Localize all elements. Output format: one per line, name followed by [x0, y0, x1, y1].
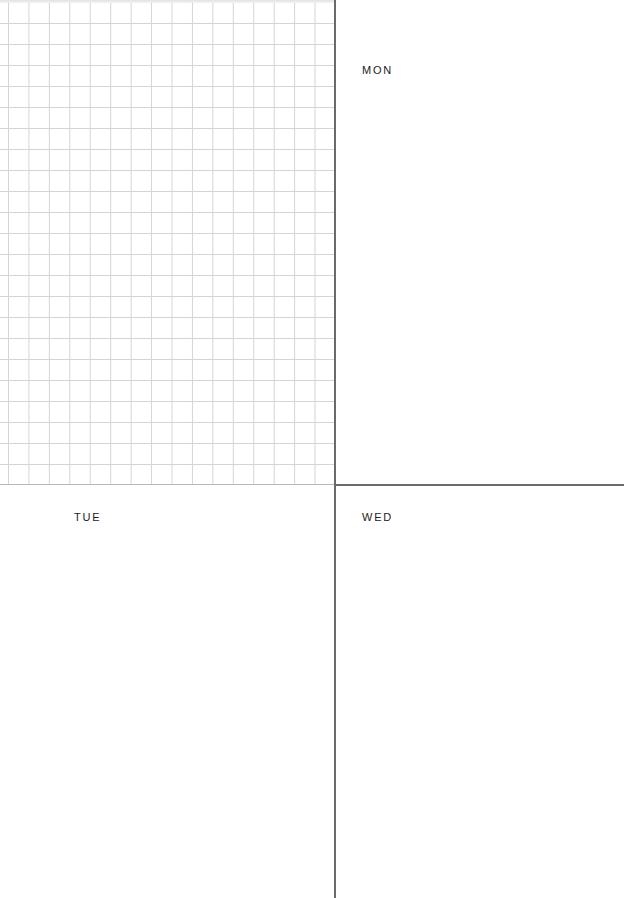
page-top-edge	[0, 0, 335, 3]
day-label-wednesday: WED	[362, 511, 393, 523]
horizontal-divider	[335, 484, 624, 486]
day-label-tuesday: TUE	[74, 511, 101, 523]
notes-grid-panel	[0, 0, 335, 485]
grid-bottom-line	[0, 484, 335, 485]
day-label-monday: MON	[362, 64, 393, 76]
day-section-tuesday[interactable]	[0, 486, 334, 898]
vertical-divider	[334, 0, 336, 898]
day-section-wednesday[interactable]	[336, 486, 624, 898]
